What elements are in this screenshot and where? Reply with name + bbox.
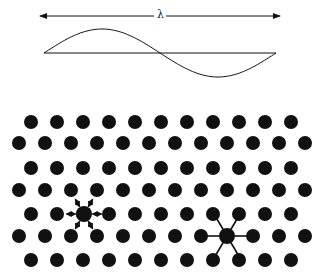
atom (50, 253, 64, 267)
atom (38, 229, 52, 243)
atom (142, 136, 156, 150)
atom (24, 207, 38, 221)
atom (232, 161, 246, 175)
atom (116, 183, 130, 197)
atom (50, 161, 64, 175)
atom (180, 161, 194, 175)
atom (12, 229, 26, 243)
atom (220, 136, 234, 150)
vibration-arrow-icon (88, 221, 92, 228)
atom (154, 161, 168, 175)
wave (40, 16, 280, 77)
diagram: λ (0, 0, 328, 279)
atom (102, 115, 116, 129)
atom (116, 229, 130, 243)
atom (206, 253, 220, 267)
atom (24, 253, 38, 267)
vibration-arrow-icon (88, 199, 92, 206)
atom (272, 229, 286, 243)
atom (90, 183, 104, 197)
atom (284, 253, 298, 267)
atom (258, 115, 272, 129)
vibration-arrow-icon (75, 199, 79, 206)
atom (116, 136, 130, 150)
atom (128, 161, 142, 175)
wavelength-label: λ (155, 9, 166, 20)
atom (90, 136, 104, 150)
atom (258, 207, 272, 221)
vibration-arrow-icon (75, 221, 79, 228)
atom (272, 183, 286, 197)
atom (220, 183, 234, 197)
atom (206, 161, 220, 175)
diagram-canvas (0, 0, 328, 279)
atom (50, 207, 64, 221)
atom (38, 136, 52, 150)
atom (154, 253, 168, 267)
atom (168, 229, 182, 243)
atom (194, 183, 208, 197)
atom (102, 207, 116, 221)
crystal-lattice (12, 115, 312, 267)
atom (128, 207, 142, 221)
atom (180, 207, 194, 221)
atom (232, 115, 246, 129)
atom (168, 136, 182, 150)
atom (102, 161, 116, 175)
atom (50, 115, 64, 129)
atom (12, 183, 26, 197)
atom (76, 161, 90, 175)
atom (246, 183, 260, 197)
atom (298, 229, 312, 243)
atom (128, 115, 142, 129)
atom (76, 115, 90, 129)
atom (24, 115, 38, 129)
atom (38, 183, 52, 197)
atom (246, 136, 260, 150)
atom (194, 136, 208, 150)
atom (272, 136, 286, 150)
atom (12, 136, 26, 150)
atom (284, 161, 298, 175)
atom (64, 183, 78, 197)
atom (128, 253, 142, 267)
vibrating-atom (76, 206, 92, 222)
atom (298, 136, 312, 150)
atom (206, 115, 220, 129)
atom (76, 253, 90, 267)
atom (24, 161, 38, 175)
atom (258, 161, 272, 175)
atom (64, 229, 78, 243)
atom (90, 229, 104, 243)
atom (284, 207, 298, 221)
atom (142, 229, 156, 243)
bonded-atom (219, 228, 235, 244)
atom (232, 207, 246, 221)
atom (154, 115, 168, 129)
atom (258, 253, 272, 267)
atom (298, 183, 312, 197)
atom (168, 183, 182, 197)
atom (180, 115, 194, 129)
atom (142, 183, 156, 197)
atom (154, 207, 168, 221)
atom (206, 207, 220, 221)
atom (64, 136, 78, 150)
atom (284, 115, 298, 129)
atom (180, 253, 194, 267)
atom (102, 253, 116, 267)
